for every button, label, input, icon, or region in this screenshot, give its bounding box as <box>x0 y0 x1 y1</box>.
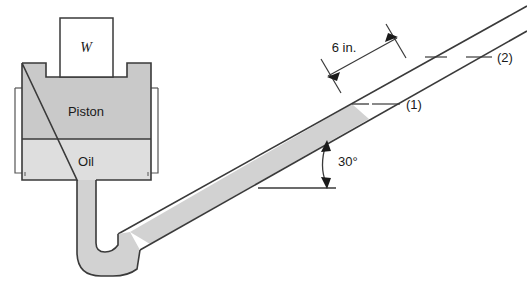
cylinder-right-outer-wall <box>151 88 158 173</box>
manometer-diagram: W Piston Oil 6 in. (1) (2) <box>0 0 527 289</box>
oil-label: Oil <box>78 154 94 169</box>
dimension-extension-line-upper <box>386 24 406 58</box>
point-1-label: (1) <box>406 97 422 112</box>
inclined-tube-oil-fill <box>130 104 369 244</box>
cylinder-left-outer-wall <box>15 88 22 173</box>
angle-label: 30° <box>338 154 358 169</box>
piston-label: Piston <box>68 104 104 119</box>
u-bend-fill <box>77 180 140 276</box>
tube-upper-wall <box>118 6 527 234</box>
point-2-label: (2) <box>497 50 513 65</box>
dimension-label: 6 in. <box>332 40 357 55</box>
inclined-tube <box>118 6 527 250</box>
angle-arrow-lower <box>321 177 331 189</box>
tube-lower-wall <box>140 31 527 250</box>
weight-label: W <box>80 40 93 55</box>
u-bend-tube <box>77 180 140 276</box>
u-bend-inner-wall <box>96 180 118 252</box>
